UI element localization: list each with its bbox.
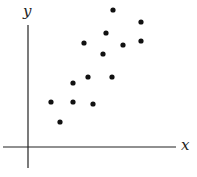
data-point: [110, 7, 115, 12]
y-axis-label: y: [23, 4, 31, 19]
data-point: [70, 80, 75, 85]
data-point: [109, 74, 114, 79]
data-point: [103, 30, 108, 35]
data-points: [48, 7, 143, 124]
data-point: [90, 101, 95, 106]
data-point: [81, 40, 86, 45]
data-point: [70, 99, 75, 104]
data-point: [120, 42, 125, 47]
scatter-plot: [0, 0, 197, 177]
data-point: [138, 19, 143, 24]
data-point: [138, 38, 143, 43]
x-axis-label: x: [181, 138, 189, 153]
data-point: [100, 51, 105, 56]
data-point: [48, 99, 53, 104]
data-point: [57, 119, 62, 124]
data-point: [85, 74, 90, 79]
